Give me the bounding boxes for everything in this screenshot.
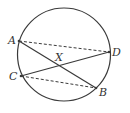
chord-ab: [19, 41, 96, 88]
chord-cd: [21, 52, 109, 76]
segment-cb-dashed: [21, 76, 96, 88]
point-b: [95, 87, 98, 90]
label-x: X: [54, 51, 64, 64]
point-d: [108, 51, 111, 54]
label-c: C: [9, 70, 18, 83]
point-a: [18, 40, 21, 43]
label-a: A: [7, 34, 16, 47]
segment-ad-dashed: [19, 41, 109, 52]
label-d: D: [111, 46, 121, 59]
point-c: [20, 75, 23, 78]
circle-chord-diagram: A C D B X: [0, 0, 130, 113]
label-b: B: [98, 86, 107, 99]
